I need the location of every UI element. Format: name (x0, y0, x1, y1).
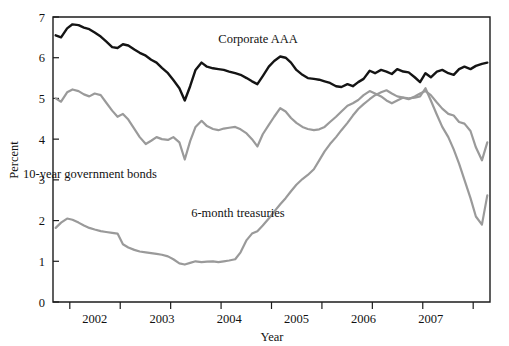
x-tick-label-2003: 2003 (149, 312, 174, 326)
x-axis-ticks: 200220032004200520062007 (70, 302, 473, 326)
axes-frame (53, 17, 490, 302)
x-tick-label-2005: 2005 (284, 312, 309, 326)
y-tick-label-6: 6 (39, 51, 45, 65)
y-tick-label-5: 5 (39, 92, 45, 106)
x-tick-label-2006: 2006 (351, 312, 376, 326)
y-axis-title: Percent (7, 141, 21, 179)
x-tick-label-2004: 2004 (217, 312, 243, 326)
chart-container: 01234567 200220032004200520062007 Corpor… (0, 0, 509, 346)
y-tick-label-7: 7 (39, 11, 45, 25)
data-series-group (56, 24, 488, 264)
x-tick-label-2007: 2007 (418, 312, 443, 326)
annotation-six-month: 6-month treasuries (191, 206, 285, 220)
annotation-ten-year: 10-year government bonds (23, 167, 157, 181)
y-tick-label-1: 1 (39, 255, 45, 269)
x-axis-title: Year (260, 330, 284, 344)
series-line-10-year-government-bonds (56, 89, 488, 160)
y-tick-label-2: 2 (39, 214, 45, 228)
y-axis-ticks: 01234567 (39, 11, 59, 310)
annotation-corporate-aaa: Corporate AAA (218, 32, 298, 46)
x-tick-label-2002: 2002 (82, 312, 107, 326)
plot-frame (53, 17, 490, 302)
y-tick-label-0: 0 (39, 296, 45, 310)
series-annotations: Corporate AAA10-year government bonds6-m… (23, 32, 298, 220)
y-tick-label-4: 4 (39, 133, 46, 147)
line-chart: 01234567 200220032004200520062007 Corpor… (0, 0, 509, 346)
